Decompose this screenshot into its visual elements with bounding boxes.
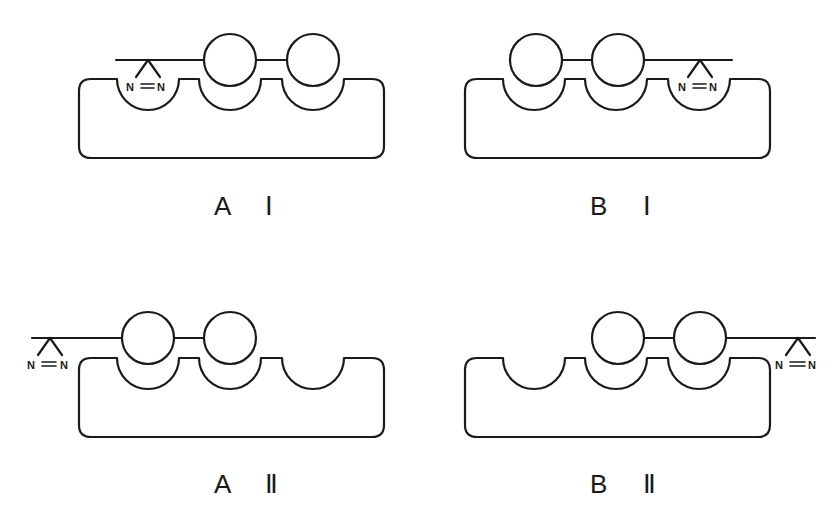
panel-a-ii: N N xyxy=(27,312,384,437)
ligand-circle xyxy=(592,34,644,86)
binding-site-body xyxy=(79,79,384,158)
panel-label-a-ii: A Ⅱ xyxy=(214,469,292,500)
binding-site-body xyxy=(465,79,770,158)
binding-site-body xyxy=(465,358,770,437)
svg-text:N: N xyxy=(126,81,134,93)
diazirine-icon: N N xyxy=(126,60,165,93)
panel-label-b-i: B Ⅰ xyxy=(590,191,665,222)
ligand-circle xyxy=(204,312,256,364)
ligand-circle xyxy=(204,34,256,86)
panel-a-i: N N xyxy=(79,34,384,158)
svg-text:N: N xyxy=(60,359,68,371)
ligand-circle xyxy=(674,312,726,364)
panel-label-b-ii: B Ⅱ xyxy=(590,469,670,500)
svg-text:N: N xyxy=(678,81,686,93)
diazirine-icon: N N xyxy=(27,338,68,371)
svg-text:N: N xyxy=(27,359,35,371)
panel-b-i: N N xyxy=(465,34,770,158)
ligand-circle xyxy=(592,312,644,364)
diazirine-icon: N N xyxy=(678,60,717,93)
svg-text:N: N xyxy=(709,81,717,93)
ligand-circle xyxy=(287,34,339,86)
svg-text:N: N xyxy=(808,359,816,371)
diazirine-icon: N N xyxy=(775,338,816,371)
ligand-circle xyxy=(122,312,174,364)
diagram-canvas: N N N N N N xyxy=(0,0,837,521)
binding-site-body xyxy=(79,358,384,437)
svg-text:N: N xyxy=(157,81,165,93)
svg-text:N: N xyxy=(775,359,783,371)
ligand-circle xyxy=(510,34,562,86)
panel-label-a-i: A Ⅰ xyxy=(214,191,287,222)
panel-b-ii: N N xyxy=(465,312,816,437)
